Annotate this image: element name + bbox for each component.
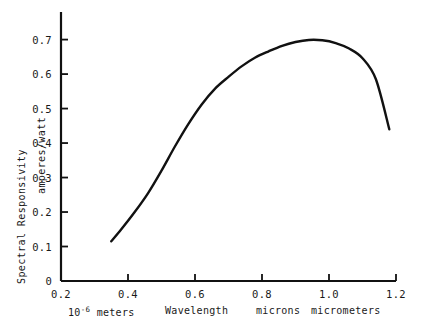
- chart-canvas: [0, 0, 423, 332]
- y-tick-label: 0.5: [24, 103, 52, 115]
- responsivity-curve: [111, 40, 389, 242]
- x-tick-label: 1.2: [378, 288, 414, 300]
- y-tick-label: 0.3: [24, 172, 52, 184]
- x-tick-label: 0.8: [244, 288, 280, 300]
- y-tick-label: 0.2: [24, 206, 52, 218]
- x-axis-units-microns: microns: [256, 305, 300, 316]
- x-axis-units-meters-exponent: -6: [81, 305, 91, 314]
- x-axis-units-micrometers: micrometers: [311, 305, 381, 316]
- x-axis-units-meters-base: 10: [68, 307, 81, 318]
- x-axis-units-meters: 10-6 meters: [68, 305, 135, 318]
- data-series-group: [111, 40, 389, 242]
- x-tick-label: 0.6: [177, 288, 213, 300]
- spectral-responsivity-chart: Spectral Responsivity amperes/watt 00.10…: [0, 0, 423, 332]
- x-tick-label: 0.2: [43, 288, 79, 300]
- y-tick-label: 0.1: [24, 241, 52, 253]
- x-tick-label: 0.4: [110, 288, 146, 300]
- y-tick-label: 0.6: [24, 68, 52, 80]
- y-tick-label: 0.4: [24, 137, 52, 149]
- x-axis-units-meters-word: meters: [97, 307, 135, 318]
- x-axis-title: Wavelength: [165, 305, 228, 316]
- x-tick-label: 1.0: [311, 288, 347, 300]
- y-tick-label: 0.7: [24, 34, 52, 46]
- y-tick-label: 0: [24, 275, 52, 287]
